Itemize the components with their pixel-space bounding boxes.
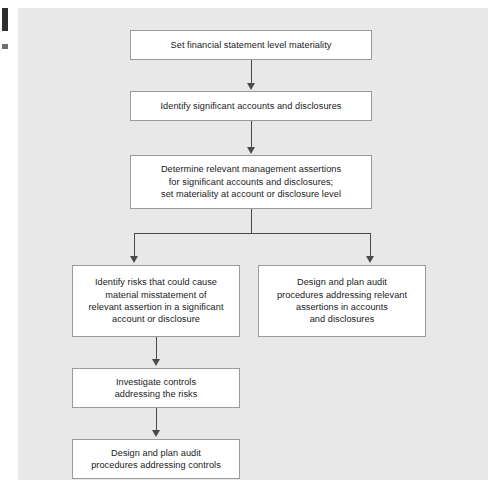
scan-artifact-mark-bottom (2, 44, 8, 49)
connector-split-stem (251, 209, 252, 233)
flow-node-identify-accounts-label: Identify significant accounts and disclo… (161, 100, 342, 112)
connector-split-left-drop (134, 233, 135, 258)
flow-node-set-materiality: Set financial statement level materialit… (130, 30, 372, 60)
connector-split-right-arrowhead (366, 256, 374, 263)
connector-n4-n6-arrowhead (152, 359, 160, 366)
flow-node-investigate-controls: Investigate controls addressing the risk… (72, 368, 240, 408)
flow-node-identify-accounts: Identify significant accounts and disclo… (130, 91, 372, 121)
connector-split-right-drop (370, 233, 371, 258)
flow-node-identify-risks-label: Identify risks that could cause material… (88, 276, 223, 326)
flow-node-identify-risks: Identify risks that could cause material… (72, 265, 240, 337)
connector-split-left-arrowhead (130, 256, 138, 263)
flow-node-design-substantive-procedures-label: Design and plan audit procedures address… (277, 276, 407, 326)
connector-n6-n7-arrowhead (152, 430, 160, 437)
flow-node-design-control-procedures: Design and plan audit procedures address… (72, 439, 240, 479)
flow-node-determine-assertions: Determine relevant management assertions… (130, 155, 372, 209)
flow-node-design-control-procedures-label: Design and plan audit procedures address… (91, 447, 221, 472)
flow-node-investigate-controls-label: Investigate controls addressing the risk… (115, 376, 198, 401)
flow-node-determine-assertions-label: Determine relevant management assertions… (161, 163, 341, 200)
flow-node-set-materiality-label: Set financial statement level materialit… (171, 39, 332, 51)
flow-node-design-substantive-procedures: Design and plan audit procedures address… (258, 265, 426, 337)
connector-split-bar (134, 233, 370, 234)
scan-artifact-mark-top (2, 8, 8, 31)
connector-n2-n3-arrowhead (247, 147, 255, 154)
flowchart-figure-canvas: Set financial statement level materialit… (18, 8, 488, 480)
connector-n1-n2-arrowhead (247, 83, 255, 90)
connector-n2-n3-line (251, 121, 252, 150)
